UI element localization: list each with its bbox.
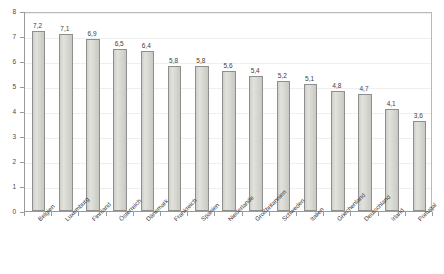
bar-chart: 012345678 7,27,16,96,56,45,85,85,65,45,2… (0, 0, 444, 274)
y-tick-mark (20, 187, 24, 188)
gridline (25, 13, 431, 14)
x-tick-mark (296, 212, 297, 216)
y-tick-mark (20, 87, 24, 88)
bar[interactable] (141, 51, 155, 211)
bar-value-label: 5,6 (218, 63, 238, 70)
y-tick-mark (20, 162, 24, 163)
plot-area (24, 12, 432, 212)
bar[interactable] (168, 66, 182, 211)
bar-value-label: 3,6 (408, 113, 428, 120)
bar[interactable] (86, 39, 100, 212)
y-tick-mark (20, 37, 24, 38)
bar[interactable] (304, 84, 318, 212)
bar-value-label: 5,8 (164, 58, 184, 65)
y-tick-label: 3 (0, 134, 16, 141)
bar[interactable] (249, 76, 263, 211)
y-tick-mark (20, 62, 24, 63)
bar[interactable] (222, 71, 236, 211)
x-tick-mark (51, 212, 52, 216)
x-tick-mark (133, 212, 134, 216)
bar[interactable] (195, 66, 209, 211)
x-tick-mark (106, 212, 107, 216)
bar-value-label: 5,4 (245, 68, 265, 75)
y-tick-label: 0 (0, 209, 16, 216)
y-tick-label: 6 (0, 59, 16, 66)
y-tick-mark (20, 137, 24, 138)
y-tick-mark (20, 112, 24, 113)
x-tick-mark (432, 212, 433, 216)
bar[interactable] (32, 31, 46, 211)
y-tick-label: 1 (0, 184, 16, 191)
x-tick-mark (24, 212, 25, 216)
bar-value-label: 5,8 (191, 58, 211, 65)
bar-value-label: 4,7 (354, 86, 374, 93)
x-tick-mark (378, 212, 379, 216)
y-tick-label: 2 (0, 159, 16, 166)
bar[interactable] (59, 34, 73, 212)
bar[interactable] (413, 121, 427, 211)
x-tick-mark (405, 212, 406, 216)
y-tick-label: 7 (0, 34, 16, 41)
x-tick-mark (242, 212, 243, 216)
bar-value-label: 4,1 (381, 101, 401, 108)
y-axis-line (24, 12, 25, 212)
bar-value-label: 7,1 (55, 26, 75, 33)
y-tick-mark (20, 12, 24, 13)
x-tick-mark (269, 212, 270, 216)
x-tick-mark (187, 212, 188, 216)
x-tick-mark (160, 212, 161, 216)
bar[interactable] (113, 49, 127, 212)
bar-value-label: 5,2 (272, 73, 292, 80)
y-tick-label: 4 (0, 109, 16, 116)
x-tick-mark (78, 212, 79, 216)
y-tick-label: 5 (0, 84, 16, 91)
x-tick-mark (214, 212, 215, 216)
bar-value-label: 5,1 (300, 76, 320, 83)
bar[interactable] (331, 91, 345, 211)
y-tick-label: 8 (0, 9, 16, 16)
bar-value-label: 6,5 (109, 41, 129, 48)
x-tick-mark (350, 212, 351, 216)
bar-value-label: 6,9 (82, 31, 102, 38)
x-tick-mark (323, 212, 324, 216)
bar-value-label: 7,2 (28, 23, 48, 30)
bar-value-label: 6,4 (136, 43, 156, 50)
bar-value-label: 4,8 (327, 83, 347, 90)
